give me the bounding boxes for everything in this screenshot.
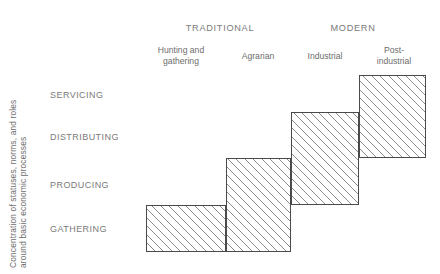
column-header-hunting-and-gathering-line-1: Hunting and <box>144 45 218 56</box>
group-header-traditional: TRADITIONAL <box>186 23 254 33</box>
block-agrarian <box>226 158 291 252</box>
row-label-distributing: DISTRIBUTING <box>50 132 142 142</box>
y-axis-caption-line-1: Concentration of statuses, norms, and ro… <box>8 100 18 268</box>
row-label-producing: PRODUCING <box>50 180 142 190</box>
column-header-post-industrial: Post- industrial <box>357 45 431 67</box>
column-header-post-industrial-line-2: industrial <box>357 56 431 67</box>
column-header-agrarian-line-1: Agrarian <box>221 51 295 62</box>
y-axis-caption-line-2: around basic economic processes <box>18 137 28 268</box>
column-header-hunting-and-gathering-line-2: gathering <box>144 56 218 67</box>
block-post-industrial <box>359 75 426 158</box>
column-header-agrarian: Agrarian <box>221 51 295 62</box>
block-hunting-and-gathering <box>146 205 226 252</box>
column-header-industrial-line-1: Industrial <box>288 51 362 62</box>
column-header-post-industrial-line-1: Post- <box>357 45 431 56</box>
column-header-industrial: Industrial <box>288 51 362 62</box>
staircase-diagram: Concentration of statuses, norms, and ro… <box>0 0 440 274</box>
column-header-hunting-and-gathering: Hunting and gathering <box>144 45 218 67</box>
block-industrial <box>291 112 359 205</box>
row-label-servicing: SERVICING <box>50 90 142 100</box>
row-label-gathering: GATHERING <box>50 224 142 234</box>
y-axis-caption: Concentration of statuses, norms, and ro… <box>2 0 46 274</box>
group-header-modern: MODERN <box>330 23 375 33</box>
